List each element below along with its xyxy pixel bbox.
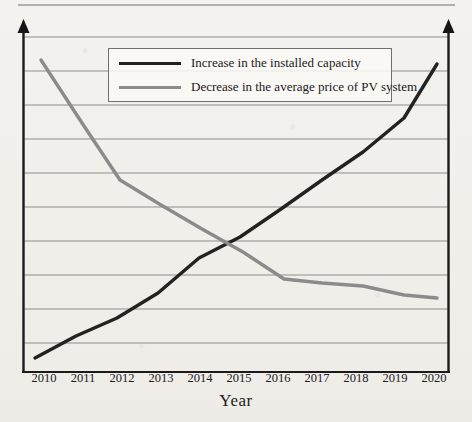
chart-legend: Increase in the installed capacity Decre…	[108, 48, 392, 102]
x-tick-2012: 2012	[110, 371, 135, 386]
x-tick-2020: 2020	[422, 371, 447, 386]
x-tick-2019: 2019	[383, 371, 408, 386]
axis-arrow-right-icon	[443, 19, 455, 33]
x-tick-2016: 2016	[266, 371, 291, 386]
axis-arrow-left-icon	[18, 19, 30, 33]
x-tick-2018: 2018	[344, 371, 369, 386]
x-tick-2013: 2013	[149, 371, 174, 386]
line-chart: Increase in the installed capacity Decre…	[0, 0, 472, 422]
x-tick-2011: 2011	[71, 371, 96, 386]
x-tick-2017: 2017	[305, 371, 330, 386]
gray-line-swatch-icon	[119, 86, 181, 89]
series-line-installed-capacity	[35, 64, 437, 358]
legend-entry-pv-price: Decrease in the average price of PV syst…	[119, 76, 417, 98]
x-axis-tick-labels: 2010 2011 2012 2013 2014 2015 2016 2017 …	[0, 371, 472, 389]
dark-line-swatch-icon	[119, 62, 181, 65]
legend-label-installed-capacity: Increase in the installed capacity	[191, 55, 361, 71]
x-tick-2010: 2010	[32, 371, 57, 386]
legend-label-pv-price: Decrease in the average price of PV syst…	[191, 79, 417, 95]
legend-entry-installed-capacity: Increase in the installed capacity	[119, 52, 361, 74]
x-tick-2015: 2015	[227, 371, 252, 386]
x-axis-title: Year	[0, 391, 472, 411]
x-tick-2014: 2014	[188, 371, 213, 386]
